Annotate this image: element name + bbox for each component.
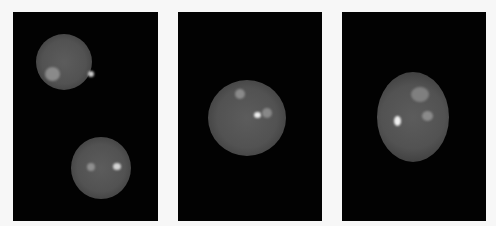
nucleus	[208, 80, 286, 156]
fluorescent-focus	[394, 116, 401, 126]
micrograph-panel-2	[178, 12, 322, 221]
nucleus	[36, 34, 92, 90]
fluorescent-focus	[87, 163, 95, 171]
micrograph-panel-1	[13, 12, 158, 221]
fluorescent-focus	[254, 112, 261, 118]
nucleus	[71, 137, 131, 199]
nucleus	[377, 72, 449, 162]
fluorescent-focus	[113, 163, 121, 170]
fluorescent-focus	[262, 108, 272, 118]
fluorescent-focus	[45, 67, 60, 81]
fluorescent-focus	[88, 71, 94, 77]
micrograph-panel-3	[342, 12, 486, 221]
fluorescent-focus	[411, 87, 429, 102]
fluorescent-focus	[422, 111, 433, 121]
fluorescent-focus	[235, 89, 245, 99]
